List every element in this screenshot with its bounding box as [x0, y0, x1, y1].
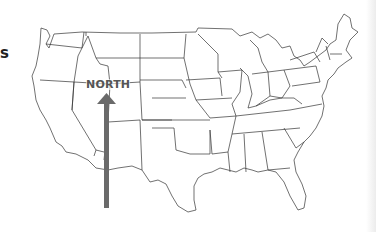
us-state-map	[0, 0, 376, 232]
north-label: NORTH	[86, 79, 130, 90]
us-outline	[32, 14, 358, 212]
page-edge-shadow	[366, 0, 376, 232]
north-arrow-icon	[97, 93, 116, 208]
